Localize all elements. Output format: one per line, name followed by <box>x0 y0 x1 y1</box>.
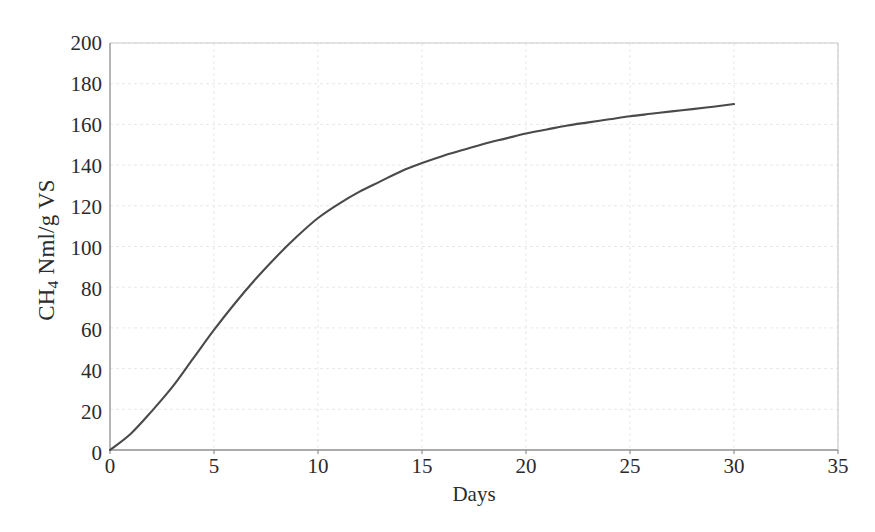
chart-figure: CH4 Nml/g VS 200 180 160 140 120 100 80 … <box>0 0 875 532</box>
plot-area <box>0 0 875 532</box>
